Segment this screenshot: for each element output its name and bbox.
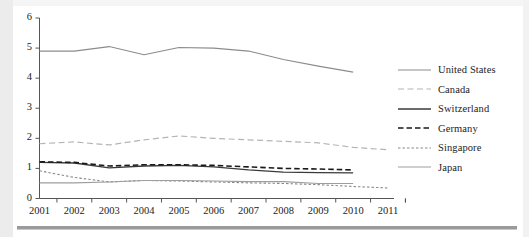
series-line-canada xyxy=(40,136,389,150)
legend-label: Singapore xyxy=(438,142,481,153)
figure-page: 0123456 20012002200320042005200620072008… xyxy=(0,0,529,237)
legend-label: United States xyxy=(438,64,496,75)
legend-line-swatch-icon xyxy=(398,162,431,172)
legend-item-canada[interactable]: Canada xyxy=(398,80,523,100)
y-tick-label: 0 xyxy=(16,192,32,203)
series-line-united-states xyxy=(40,47,354,73)
page-bottom-rule-shadow xyxy=(17,229,517,230)
y-tick-label: 3 xyxy=(16,101,32,112)
series-line-germany xyxy=(40,162,354,170)
legend-item-singapore[interactable]: Singapore xyxy=(398,138,523,158)
legend-label: Switzerland xyxy=(438,103,489,114)
legend-item-japan[interactable]: Japan xyxy=(398,158,523,178)
y-tick-label: 6 xyxy=(16,11,32,22)
legend-item-switzerland[interactable]: Switzerland xyxy=(398,99,523,119)
legend-line-swatch-icon xyxy=(398,65,431,75)
y-tick-label: 2 xyxy=(16,131,32,142)
legend-label: Germany xyxy=(438,123,478,134)
y-tick-label: 5 xyxy=(16,41,32,52)
legend-label: Japan xyxy=(438,162,462,173)
legend-item-united-states[interactable]: United States xyxy=(398,60,523,80)
legend-line-swatch-icon xyxy=(398,123,431,133)
legend-line-swatch-icon xyxy=(398,143,431,153)
legend-label: Canada xyxy=(438,84,470,95)
x-tick-label: 2011 xyxy=(368,205,408,216)
chart-legend: United StatesCanadaSwitzerlandGermanySin… xyxy=(398,60,523,177)
legend-line-swatch-icon xyxy=(398,84,431,94)
y-tick-label: 1 xyxy=(16,161,32,172)
legend-item-germany[interactable]: Germany xyxy=(398,119,523,139)
y-tick-label: 4 xyxy=(16,71,32,82)
legend-line-swatch-icon xyxy=(398,104,431,114)
